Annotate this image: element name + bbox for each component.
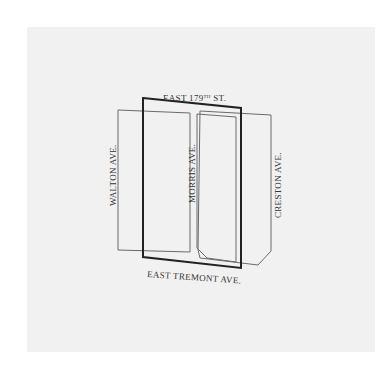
creston-block xyxy=(198,111,271,265)
street-label-west: WALTON AVE. xyxy=(108,144,118,206)
morris-east-block xyxy=(197,114,236,262)
block-map: EAST 179TH ST. EAST TREMONT AVE. WALTON … xyxy=(0,0,388,371)
street-label-south: EAST TREMONT AVE. xyxy=(147,269,242,286)
street-label-middle: MORRIS AVE. xyxy=(187,144,197,203)
walton-block xyxy=(118,110,190,252)
street-label-north: EAST 179TH ST. xyxy=(163,93,226,103)
street-label-east: CRESTON AVE. xyxy=(273,152,283,218)
